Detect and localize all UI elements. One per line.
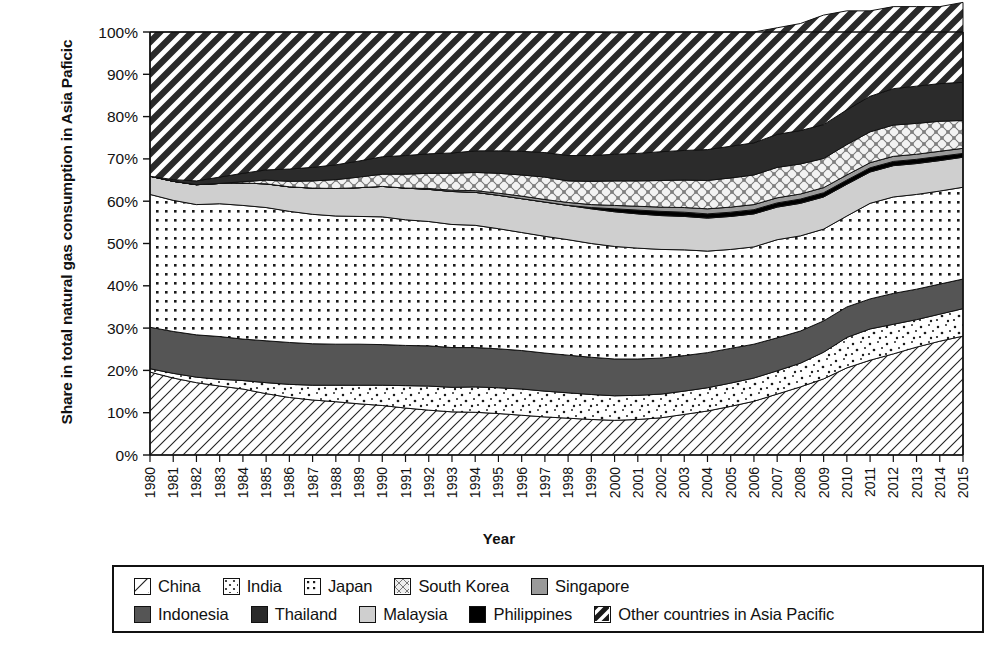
legend-swatch-icon — [359, 606, 376, 623]
y-tick-labels: 0%10%20%30%40%50%60%70%80%90%100% — [98, 24, 138, 464]
x-tick-label: 1991 — [398, 467, 414, 498]
x-tick-label: 2012 — [885, 467, 901, 498]
stacked-area-plot: 0%10%20%30%40%50%60%70%80%90%100% 198019… — [0, 0, 998, 560]
legend-swatch-icon — [251, 606, 268, 623]
chart-root: Share in total natural gas consumption i… — [0, 0, 998, 664]
legend-label: Singapore — [555, 577, 629, 596]
x-tick-label: 1982 — [188, 467, 204, 498]
legend-swatch-icon — [223, 578, 240, 595]
y-tick-label: 50% — [107, 235, 138, 252]
x-tick-label: 1997 — [537, 467, 553, 498]
x-tick-label: 2004 — [699, 467, 715, 498]
x-tick-label: 1986 — [281, 467, 297, 498]
legend-item-singapore[interactable]: Singapore — [531, 577, 629, 596]
legend-label: Indonesia — [158, 605, 229, 624]
x-tick-label: 1981 — [165, 467, 181, 498]
x-tick-label: 1987 — [305, 467, 321, 498]
y-tick-label: 100% — [98, 24, 138, 41]
legend-swatch-icon — [531, 578, 548, 595]
area-series-group — [150, 2, 963, 455]
x-tick-label: 1989 — [351, 467, 367, 498]
y-tick-label: 40% — [107, 277, 138, 294]
y-tick-label: 20% — [107, 362, 138, 379]
x-tick-label: 1992 — [421, 467, 437, 498]
y-tick-label: 10% — [107, 404, 138, 421]
x-tick-label: 1998 — [560, 467, 576, 498]
x-tick-label: 1983 — [212, 467, 228, 498]
x-tick-labels: 1980198119821983198419851986198719881989… — [142, 467, 971, 498]
x-tick-label: 2002 — [653, 467, 669, 498]
legend-item-philippines[interactable]: Philippines — [469, 605, 572, 624]
legend-swatch-icon — [134, 606, 151, 623]
x-tick-label: 2003 — [676, 467, 692, 498]
legend-label: India — [247, 577, 282, 596]
x-tick-label: 2009 — [816, 467, 832, 498]
legend-swatch-icon — [394, 578, 411, 595]
legend-item-malaysia[interactable]: Malaysia — [359, 605, 447, 624]
legend-item-indonesia[interactable]: Indonesia — [134, 605, 229, 624]
legend-item-other-countries-in-asia-pacific[interactable]: Other countries in Asia Pacific — [594, 605, 834, 624]
x-tick-label: 1990 — [374, 467, 390, 498]
legend-item-india[interactable]: India — [223, 577, 282, 596]
legend-label: South Korea — [418, 577, 509, 596]
x-tick-label: 2015 — [955, 467, 971, 498]
y-tick-label: 0% — [116, 447, 139, 464]
legend-label: China — [158, 577, 201, 596]
legend-label: Japan — [328, 577, 372, 596]
legend-item-china[interactable]: China — [134, 577, 201, 596]
x-tick-label: 1993 — [444, 467, 460, 498]
legend-item-thailand[interactable]: Thailand — [251, 605, 338, 624]
x-tick-label: 2010 — [839, 467, 855, 498]
legend-label: Malaysia — [383, 605, 447, 624]
legend-swatch-icon — [134, 578, 151, 595]
legend-label: Other countries in Asia Pacific — [618, 605, 834, 624]
chart-legend: ChinaIndiaJapanSouth KoreaSingapore Indo… — [112, 565, 984, 633]
x-tick-label: 1995 — [490, 467, 506, 498]
x-tick-label: 1980 — [142, 467, 158, 498]
legend-label: Philippines — [493, 605, 572, 624]
x-tick-label: 2006 — [746, 467, 762, 498]
x-tick-label: 1996 — [514, 467, 530, 498]
x-tick-label: 2001 — [630, 467, 646, 498]
x-tick-label: 2013 — [909, 467, 925, 498]
legend-row-2: IndonesiaThailandMalaysiaPhilippinesOthe… — [122, 600, 974, 628]
y-tick-label: 80% — [107, 108, 138, 125]
legend-item-south-korea[interactable]: South Korea — [394, 577, 509, 596]
x-tick-label: 2007 — [769, 467, 785, 498]
x-tick-label: 2011 — [862, 467, 878, 497]
x-tick-label: 1994 — [467, 467, 483, 498]
x-tick-label: 2014 — [932, 467, 948, 498]
legend-swatch-icon — [594, 606, 611, 623]
legend-label: Thailand — [275, 605, 338, 624]
x-tick-label: 1988 — [328, 467, 344, 498]
x-tick-label: 1984 — [235, 467, 251, 498]
x-tick-label: 2005 — [723, 467, 739, 498]
y-tick-label: 90% — [107, 66, 138, 83]
legend-swatch-icon — [304, 578, 321, 595]
legend-item-japan[interactable]: Japan — [304, 577, 372, 596]
x-tick-label: 2008 — [792, 467, 808, 498]
x-tick-label: 2000 — [607, 467, 623, 498]
y-tick-label: 60% — [107, 193, 138, 210]
y-tick-label: 30% — [107, 320, 138, 337]
x-tick-label: 1999 — [583, 467, 599, 498]
legend-row-1: ChinaIndiaJapanSouth KoreaSingapore — [122, 572, 974, 600]
x-tick-label: 1985 — [258, 467, 274, 498]
legend-swatch-icon — [469, 606, 486, 623]
y-tick-label: 70% — [107, 150, 138, 167]
